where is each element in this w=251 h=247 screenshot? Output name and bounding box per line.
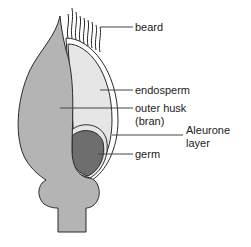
label-aleurone-layer: layer [186,137,210,149]
label-outer-husk-bran: (bran) [135,115,164,127]
label-beard: beard [135,21,163,33]
label-outer-husk: outer husk [135,102,187,114]
label-aleurone: Aleurone [186,124,230,136]
wheat-grain-diagram: beard endosperm outer husk (bran) Aleuro… [0,0,251,247]
label-endosperm: endosperm [135,84,190,96]
label-germ: germ [135,148,160,160]
